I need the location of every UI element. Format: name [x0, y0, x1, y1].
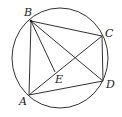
segment-AB: [29, 21, 31, 95]
label-E: E: [54, 73, 63, 86]
geometry-diagram: A B C D E: [0, 0, 122, 117]
segment-DA: [29, 81, 103, 95]
label-D: D: [105, 78, 115, 91]
point-B-dot: [30, 20, 33, 23]
segment-BD: [31, 21, 103, 81]
label-C: C: [105, 27, 114, 40]
label-A: A: [18, 95, 27, 108]
circumcircle: [12, 8, 108, 108]
label-B: B: [23, 6, 32, 19]
segment-BC: [31, 21, 102, 36]
segment-CD: [102, 36, 103, 81]
segment-BE: [31, 21, 55, 72]
segment-AC: [29, 36, 102, 95]
